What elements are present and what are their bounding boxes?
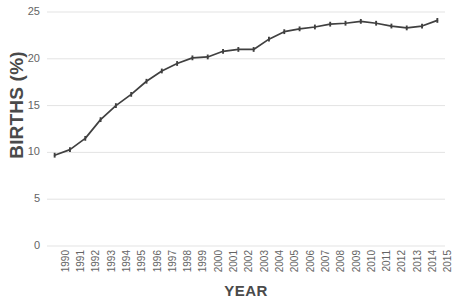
- y-axis-tick-label: 0: [12, 240, 40, 251]
- gridlines: [47, 12, 445, 246]
- x-axis-title: YEAR: [47, 282, 445, 299]
- y-axis-tick-label: 10: [12, 146, 40, 157]
- y-axis-tick-label: 25: [12, 6, 40, 17]
- data-point-markers: [55, 18, 438, 158]
- y-axis-tick-label: 5: [12, 193, 40, 204]
- y-axis-tick-label: 20: [12, 53, 40, 64]
- data-line-births: [55, 20, 438, 155]
- y-axis-tick-label: 15: [12, 100, 40, 111]
